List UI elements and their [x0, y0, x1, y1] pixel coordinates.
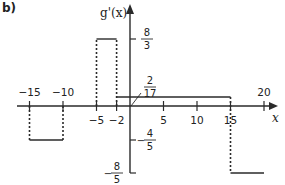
y-tick-sign: −	[104, 168, 112, 179]
y-tick-numerator: 8	[144, 27, 150, 38]
y-tick-sign: −	[137, 135, 145, 146]
x-tick-label: 15	[224, 114, 237, 126]
x-tick-label: 10	[190, 114, 203, 126]
x-tick-label: 5	[160, 114, 167, 126]
x-tick-label: 20	[257, 86, 270, 98]
label-leader-line	[131, 93, 141, 106]
y-tick-denominator: 5	[147, 141, 153, 152]
y-tick-numerator: 2	[147, 75, 153, 86]
y-axis-arrow-icon	[126, 4, 134, 14]
y-axis-label: g'(x)	[100, 6, 127, 20]
step-function-chart: xg'(x)−15−10−5−2510152083217−45−85	[0, 0, 285, 185]
y-tick-denominator: 3	[144, 40, 150, 51]
x-tick-label: −2	[109, 114, 124, 126]
x-tick-label: −10	[52, 86, 74, 98]
x-axis-label: x	[272, 111, 279, 125]
x-tick-label: −5	[89, 114, 104, 126]
x-tick-label: −15	[18, 86, 40, 98]
x-axis-arrow-icon	[269, 102, 278, 110]
y-tick-numerator: 8	[114, 161, 120, 172]
y-tick-denominator: 5	[114, 174, 120, 185]
y-tick-numerator: 4	[147, 128, 153, 139]
